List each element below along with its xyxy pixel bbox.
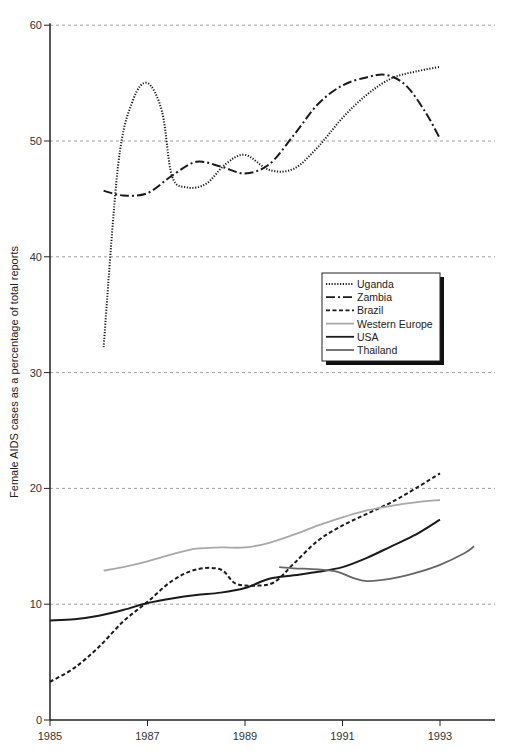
y-tick-label: 20: [30, 482, 42, 494]
x-tick-label: 1991: [330, 730, 354, 742]
y-tick-label: 40: [30, 251, 42, 263]
x-tick-label: 1993: [428, 730, 452, 742]
y-tick-label: 60: [30, 19, 42, 31]
series-line-western-europe: [104, 500, 440, 571]
y-axis-ticks: 0102030405060: [30, 19, 50, 726]
series-line-brazil: [50, 473, 440, 681]
legend-label: Uganda: [357, 278, 394, 290]
y-tick-label: 0: [36, 714, 42, 726]
x-axis-ticks: 19851987198919911993: [38, 720, 452, 742]
axes: [50, 23, 495, 720]
x-tick-label: 1987: [135, 730, 159, 742]
legend-label: Thailand: [357, 344, 397, 356]
y-tick-label: 50: [30, 135, 42, 147]
legend-label: USA: [357, 331, 379, 343]
x-tick-label: 1989: [233, 730, 257, 742]
data-series: [50, 67, 474, 682]
x-tick-label: 1985: [38, 730, 62, 742]
y-tick-label: 10: [30, 598, 42, 610]
legend: UgandaZambiaBrazilWestern EuropeUSAThail…: [322, 273, 444, 365]
line-chart: 0102030405060 19851987198919911993 Femal…: [0, 0, 511, 756]
legend-label: Brazil: [357, 304, 383, 316]
series-line-thailand: [279, 546, 474, 581]
y-axis-label: Female AIDS cases as a percentage of tot…: [8, 246, 20, 498]
legend-label: Western Europe: [357, 318, 433, 330]
y-tick-label: 30: [30, 367, 42, 379]
series-line-zambia: [104, 75, 440, 196]
legend-label: Zambia: [357, 291, 392, 303]
